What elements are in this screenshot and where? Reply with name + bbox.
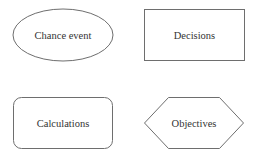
- decisions-label: Decisions: [174, 30, 215, 41]
- calculations-label: Calculations: [37, 118, 90, 129]
- chance-event-label: Chance event: [35, 30, 92, 41]
- objectives-node: Objectives: [145, 98, 244, 149]
- decisions-node: Decisions: [145, 10, 245, 61]
- influence-diagram-legend: Chance event Decisions Calculations Obje…: [0, 0, 259, 158]
- calculations-node: Calculations: [14, 98, 113, 149]
- objectives-label: Objectives: [172, 118, 217, 129]
- chance-event-node: Chance event: [13, 9, 113, 61]
